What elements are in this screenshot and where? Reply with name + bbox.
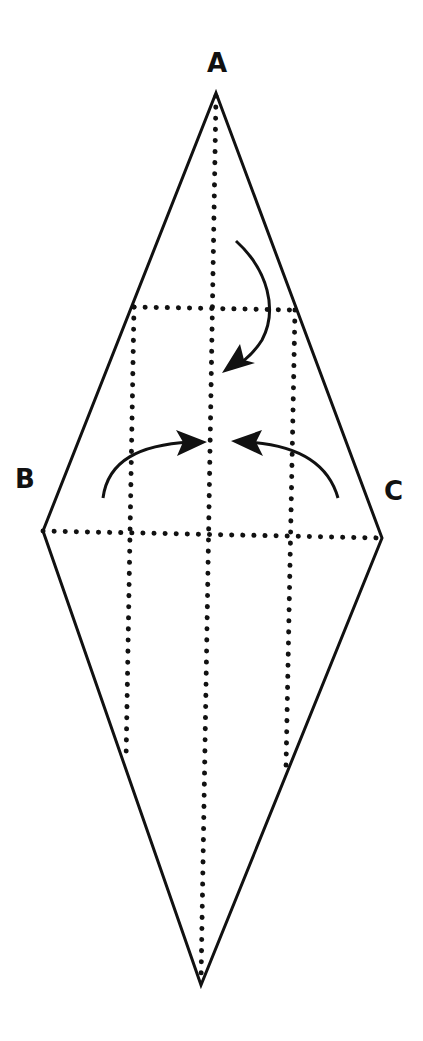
vertex-label-b: B	[15, 466, 35, 492]
right-vertical-fold-line	[286, 310, 295, 768]
fold-arrows	[103, 241, 338, 498]
fold-lines	[43, 96, 382, 982]
fold-diagram	[0, 0, 423, 1041]
vertical-diagonal-fold-line	[201, 96, 216, 982]
vertex-label-c: C	[384, 478, 403, 504]
vertex-label-a: A	[207, 50, 227, 76]
horizontal-diagonal-fold-line	[43, 531, 382, 538]
left-fold-arrow-icon	[103, 442, 190, 498]
top-arrowhead-icon	[222, 344, 255, 373]
